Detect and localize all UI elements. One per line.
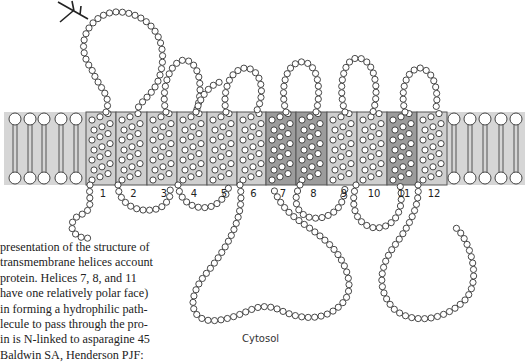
helix-label: 5	[221, 188, 227, 199]
figure-caption: presentation of the structure of transme…	[0, 240, 200, 363]
helix-label: 2	[130, 188, 136, 199]
helix-label: 11	[398, 188, 411, 199]
helix-label: 8	[310, 188, 316, 199]
cytosol-label: Cytosol	[242, 333, 279, 344]
caption-line: protein. Helices 7, 8, and 11	[0, 271, 200, 286]
caption-line: Baldwin SA, Henderson PJF:	[0, 348, 200, 363]
helix-label: 6	[250, 188, 256, 199]
caption-line: lecule to pass through the pro-	[0, 317, 200, 332]
helix-label: 1	[100, 188, 106, 199]
transmembrane-helices	[86, 111, 447, 186]
caption-line: transmembrane helices account	[0, 255, 200, 270]
helix-number-labels: 123456789101112	[100, 188, 441, 199]
caption-line: in forming a hydrophilic path-	[0, 302, 200, 317]
helix-label: 7	[280, 188, 286, 199]
helix-label: 9	[341, 188, 347, 199]
glycosylation-tree-icon	[58, 1, 88, 22]
helix-label: 12	[428, 188, 441, 199]
helix-label: 10	[368, 188, 381, 199]
caption-line: presentation of the structure of	[0, 240, 200, 255]
caption-line: have one relatively polar face)	[0, 286, 200, 301]
helix-label: 4	[191, 188, 197, 199]
helix-label: 3	[161, 188, 167, 199]
caption-line: in is N-linked to asparagine 45	[0, 332, 200, 347]
